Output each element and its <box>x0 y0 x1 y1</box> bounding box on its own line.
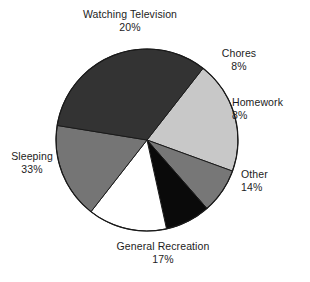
pie-label-watching-television: Watching Television 20% <box>64 8 196 34</box>
pie-label-name: Other <box>241 168 301 181</box>
pie-label-general-recreation: General Recreation 17% <box>88 240 238 266</box>
pie-chart: Watching Television 20% Chores 8% Homewo… <box>0 0 310 282</box>
pie-label-chores: Chores 8% <box>208 47 270 73</box>
pie-label-name: Chores <box>208 47 270 60</box>
pie-label-percent: 8% <box>232 109 310 122</box>
pie-label-sleeping: Sleeping 33% <box>2 150 62 176</box>
pie-label-percent: 14% <box>241 181 301 194</box>
pie-label-name: Sleeping <box>2 150 62 163</box>
pie-label-name: Homework <box>232 96 310 109</box>
pie-label-percent: 33% <box>2 163 62 176</box>
pie-label-percent: 8% <box>208 60 270 73</box>
pie-label-percent: 20% <box>64 21 196 34</box>
pie-label-name: Watching Television <box>64 8 196 21</box>
pie-slice-group <box>56 49 238 231</box>
pie-label-percent: 17% <box>88 253 238 266</box>
pie-label-other: Other 14% <box>241 168 301 194</box>
pie-label-name: General Recreation <box>88 240 238 253</box>
pie-label-homework: Homework 8% <box>232 96 310 122</box>
